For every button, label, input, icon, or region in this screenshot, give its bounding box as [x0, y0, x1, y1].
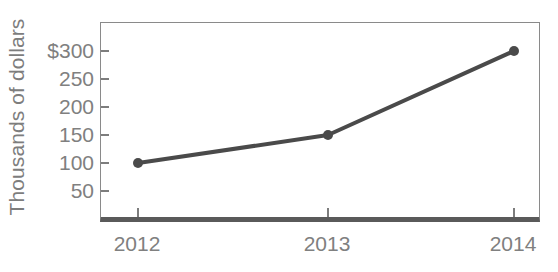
y-axis-tick-label: $300 [28, 40, 94, 61]
x-axis-tick-label: 2013 [304, 233, 351, 254]
y-axis-tick-label: 250 [28, 68, 94, 89]
y-axis-tick-label: 200 [28, 96, 94, 117]
y-axis-tick-mark [101, 50, 109, 52]
series-markers [133, 46, 519, 168]
series-line [138, 51, 514, 163]
y-axis-tick-label: 100 [28, 152, 94, 173]
data-series-layer [101, 23, 541, 223]
x-axis-tick-label: 2014 [490, 233, 537, 254]
y-axis-tick-mark [101, 162, 109, 164]
y-axis-tick-labels: 50100150200250$300 [28, 22, 94, 222]
line-chart: Thousands of dollars 50100150200250$300 … [0, 0, 558, 272]
y-axis-tick-mark [101, 106, 109, 108]
y-axis-tick-label: 50 [28, 180, 94, 201]
x-axis-tick-mark [137, 208, 139, 217]
data-point-marker [133, 158, 143, 168]
plot-area [100, 22, 540, 222]
y-axis-tick-mark [101, 134, 109, 136]
data-point-marker [323, 130, 333, 140]
y-axis-tick-mark [101, 190, 109, 192]
x-axis-tick-label: 2012 [114, 233, 161, 254]
data-point-marker [509, 46, 519, 56]
y-axis-tick-label: 150 [28, 124, 94, 145]
y-axis-tick-mark [101, 78, 109, 80]
x-axis-tick-labels: 201220132014 [100, 233, 540, 263]
x-axis-tick-mark [327, 208, 329, 217]
x-axis-tick-mark [513, 208, 515, 217]
